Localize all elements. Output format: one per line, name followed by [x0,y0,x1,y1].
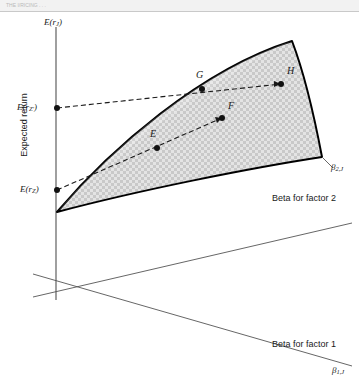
beta2-axis-title: Beta for factor 2 [272,193,336,203]
point-dot-H [278,81,284,87]
intercept-label-z: E(rZ) [20,184,39,194]
beta2-axis-line [33,223,352,297]
intercept-label-z-prime-main: E(r [17,102,29,112]
beta2-tick-label-sub: 2,J [335,165,343,172]
apt-plane-surface [57,41,322,212]
point-dot-E [154,145,160,151]
expected-return-axis-title: Expected return [19,82,29,168]
figure-page: THE I/RICING . . . [0,0,359,380]
intercept-label-z-main: E(r [20,184,32,194]
beta1-tick-label: β1,J [332,365,344,375]
point-label-H: H [287,65,294,76]
intercept-label-z-prime: E(rZ') [17,102,37,112]
intercept-dot-z-prime [54,105,60,111]
beta1-axis-line [33,274,352,366]
beta1-axis-title: Beta for factor 1 [272,339,336,349]
point-label-E: E [150,128,156,139]
point-label-G: G [196,69,203,80]
intercept-dot-z [54,187,60,193]
y-axis-label: E(rJ) [44,17,62,27]
intercept-label-z-close: ) [36,184,39,194]
y-axis-label-main: E(r [44,17,56,27]
point-dot-G [199,86,205,92]
apt-plane-diagram [0,0,359,380]
beta1-tick-label-sub: 1,J [336,368,344,375]
beta2-tick-label: β2,J [331,162,343,172]
point-label-F: F [228,100,234,111]
intercept-label-z-prime-close: ) [34,102,37,112]
point-dot-F [219,115,225,121]
y-axis-label-close: ) [59,17,62,27]
